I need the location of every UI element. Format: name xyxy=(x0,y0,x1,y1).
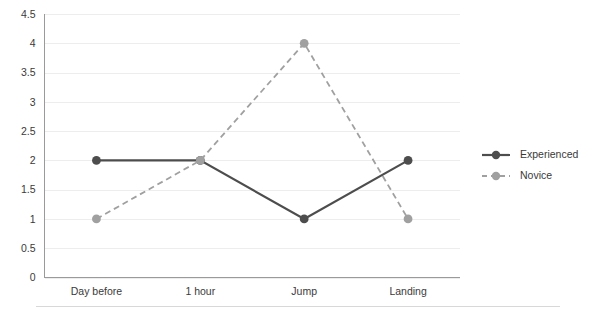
series-line xyxy=(96,160,408,219)
data-point xyxy=(404,215,413,224)
data-point xyxy=(92,215,101,224)
y-tick-labels: 00.511.522.533.544.5 xyxy=(21,8,36,284)
line-chart: 00.511.522.533.544.5 Day before1 hourJum… xyxy=(0,0,590,314)
y-tick-label: 2 xyxy=(30,154,36,166)
data-point xyxy=(300,215,309,224)
y-tick-label: 4.5 xyxy=(21,8,36,20)
data-point xyxy=(300,39,309,48)
y-tick-label: 3 xyxy=(30,96,36,108)
legend-item-experienced[interactable]: Experienced xyxy=(482,148,579,160)
legend-marker xyxy=(492,151,500,159)
x-tick-labels: Day before1 hourJumpLanding xyxy=(71,285,427,297)
x-tick-label: Day before xyxy=(71,285,123,297)
x-tick-label: Landing xyxy=(389,285,427,297)
x-tick-label: 1 hour xyxy=(185,285,215,297)
legend-item-novice[interactable]: Novice xyxy=(482,169,552,181)
legend-label: Novice xyxy=(520,169,552,181)
y-tick-label: 3.5 xyxy=(21,66,36,78)
y-tick-label: 4 xyxy=(30,37,36,49)
data-point xyxy=(404,156,413,165)
series-experienced xyxy=(92,156,412,223)
y-tick-label: 1 xyxy=(30,213,36,225)
x-tick-label: Jump xyxy=(291,285,317,297)
data-point xyxy=(196,156,205,165)
chart-legend: ExperiencedNovice xyxy=(482,148,579,181)
y-tick-label: 0.5 xyxy=(21,242,36,254)
y-tick-label: 2.5 xyxy=(21,125,36,137)
y-gridlines xyxy=(45,15,461,279)
data-point xyxy=(92,156,101,165)
legend-marker xyxy=(492,172,500,180)
legend-label: Experienced xyxy=(520,148,579,160)
y-tick-label: 0 xyxy=(30,271,36,283)
y-tick-label: 1.5 xyxy=(21,183,36,195)
chart-canvas: 00.511.522.533.544.5 Day before1 hourJum… xyxy=(0,0,590,314)
